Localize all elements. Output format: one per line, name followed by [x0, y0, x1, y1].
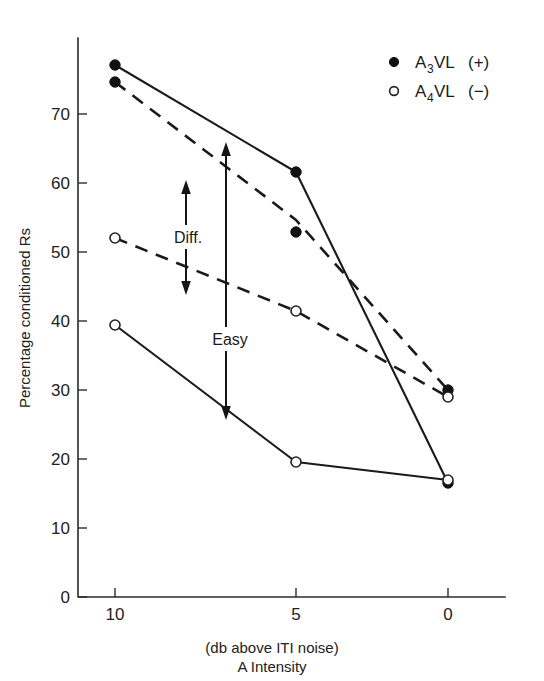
data-point-marker	[110, 233, 120, 243]
y-tick-label-10: 10	[51, 519, 70, 538]
x-axis-caption-note: (db above ITI noise)	[205, 639, 338, 656]
y-tick-label-40: 40	[51, 312, 70, 331]
data-point-marker	[110, 77, 120, 87]
legend-label-a3vl-paren: (+)	[468, 53, 489, 72]
x-tick-label-10: 10	[106, 605, 125, 624]
data-point-marker	[291, 227, 301, 237]
legend-label-a3vl-base: A	[415, 53, 427, 72]
data-point-marker	[443, 475, 453, 485]
x-tick-label-0: 0	[443, 605, 452, 624]
y-tick-label-70: 70	[51, 105, 70, 124]
data-point-marker	[291, 167, 301, 177]
y-tick-label-20: 20	[51, 450, 70, 469]
legend-label-a4vl-sub: 4	[427, 91, 434, 105]
annotation-diff-label: Diff.	[174, 229, 202, 246]
chart-background	[0, 0, 544, 681]
y-tick-label-0: 0	[61, 588, 70, 607]
legend-label-a4vl-rest: VL	[434, 82, 455, 101]
x-tick-label-5: 5	[291, 605, 300, 624]
legend-label-a3vl-rest: VL	[434, 53, 455, 72]
legend-label-a3vl-sub: 3	[427, 62, 434, 76]
legend-label-a4vl-paren: (−)	[468, 82, 489, 101]
y-axis-title: Percentage conditioned Rs	[16, 228, 33, 408]
chart-figure: 0 10 20 30 40 50 60 70 Percentage condit…	[0, 0, 544, 681]
legend-label-a4vl-base: A	[415, 82, 427, 101]
data-point-marker	[110, 60, 120, 70]
legend-open-circle-icon	[390, 87, 399, 96]
data-point-marker	[110, 320, 120, 330]
legend-filled-circle-icon	[389, 57, 398, 66]
chart-svg: 0 10 20 30 40 50 60 70 Percentage condit…	[0, 0, 544, 681]
y-tick-label-30: 30	[51, 381, 70, 400]
data-point-marker	[291, 306, 301, 316]
x-axis-title: A Intensity	[237, 658, 307, 675]
y-tick-label-60: 60	[51, 174, 70, 193]
annotation-easy-label: Easy	[212, 331, 248, 348]
data-point-marker	[291, 457, 301, 467]
y-tick-label-50: 50	[51, 243, 70, 262]
data-point-marker	[443, 392, 453, 402]
